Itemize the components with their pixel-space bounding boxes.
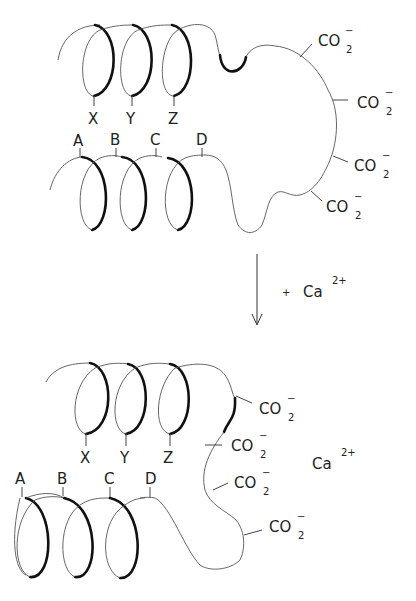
co2-charge: − — [354, 191, 362, 202]
co2-subscript: 2 — [263, 486, 269, 497]
bound-calcium-charge: 2+ — [341, 447, 356, 458]
co2-group-4: CO 2 − — [326, 191, 362, 221]
label-y: Y — [119, 449, 130, 467]
calcium-label: Ca — [303, 283, 323, 301]
label-c: C — [150, 131, 160, 149]
calcium-charge: 2+ — [332, 275, 347, 286]
top-lower-helix — [50, 155, 205, 230]
co2-formula: CO — [326, 198, 348, 216]
co2-formula: CO — [318, 32, 340, 50]
co2-subscript: 2 — [298, 530, 304, 541]
co2-formula: CO — [259, 400, 281, 418]
co2-group-1: CO 2 − — [259, 393, 295, 423]
label-x: X — [88, 110, 98, 128]
label-d: D — [145, 470, 157, 488]
co2-subscript: 2 — [383, 169, 389, 180]
co2-charge: − — [297, 511, 305, 522]
co2-bond-3 — [333, 156, 348, 162]
top-upper-helix — [58, 25, 337, 233]
calcium-binding-diagram: X Y Z A B C D CO 2 − CO 2 − CO 2 − CO 2 … — [0, 0, 416, 601]
label-b: B — [57, 470, 67, 488]
co2-bond-3 — [213, 483, 228, 490]
co2-subscript: 2 — [260, 449, 266, 460]
bottom-upper-helix — [46, 363, 244, 569]
co2-group-1: CO 2 − — [318, 25, 353, 55]
co2-charge: − — [385, 87, 393, 98]
co2-charge: − — [382, 150, 390, 161]
bound-calcium-label: Ca — [312, 455, 332, 473]
co2-group-2: CO 2 − — [357, 87, 393, 117]
label-a: A — [73, 132, 84, 150]
top-state: X Y Z A B C D CO 2 − CO 2 − CO 2 − CO 2 … — [50, 25, 393, 233]
label-a: A — [15, 470, 26, 488]
co2-group-3: CO 2 − — [354, 150, 390, 180]
label-x: X — [80, 449, 90, 467]
bottom-state: X Y Z A B C D CO 2 − CO 2 − CO 2 − CO 2 … — [15, 363, 356, 578]
co2-charge: − — [287, 393, 295, 404]
co2-group-2: CO 2 − — [231, 430, 267, 460]
co2-formula: CO — [234, 474, 256, 492]
label-c: C — [104, 470, 114, 488]
label-z: Z — [163, 449, 173, 467]
co2-subscript: 2 — [355, 210, 361, 221]
co2-charge: − — [262, 467, 270, 478]
label-d: D — [196, 131, 208, 149]
label-y: Y — [125, 110, 136, 128]
bottom-lower-helix — [15, 494, 145, 579]
co2-bond-4 — [244, 530, 262, 535]
plus-sign: + — [282, 287, 290, 298]
co2-formula: CO — [354, 157, 376, 175]
label-b: B — [110, 131, 120, 149]
co2-formula: CO — [269, 518, 291, 536]
co2-subscript: 2 — [288, 412, 294, 423]
co2-subscript: 2 — [346, 44, 352, 55]
co2-charge: − — [259, 430, 267, 441]
co2-subscript: 2 — [386, 106, 392, 117]
co2-bond-1 — [300, 44, 312, 57]
co2-formula: CO — [357, 94, 379, 112]
transition: + Ca 2+ — [252, 254, 347, 325]
co2-formula: CO — [231, 437, 253, 455]
label-z: Z — [168, 110, 178, 128]
co2-charge: − — [345, 25, 353, 36]
co2-group-3: CO 2 − — [234, 467, 270, 497]
co2-group-4: CO 2 − — [269, 511, 305, 541]
co2-bond-4 — [311, 191, 322, 201]
co2-bond-1 — [236, 396, 252, 403]
